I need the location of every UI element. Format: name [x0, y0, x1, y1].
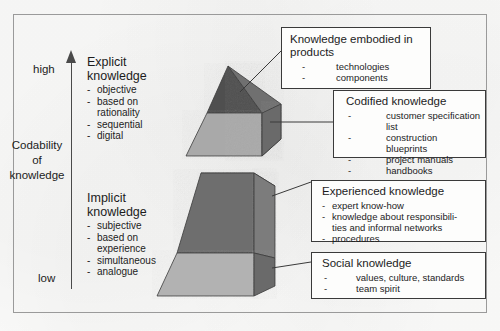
pyramid-segment-codified-band	[186, 113, 262, 156]
callout-title-line-1: Experienced knowledge	[320, 185, 481, 198]
list-item-text: knowledge about responsibili-	[332, 211, 481, 222]
list-item-text: procedures	[332, 233, 481, 244]
list-item-text: values, culture, standards	[356, 272, 481, 283]
list-dash: -	[322, 211, 325, 222]
upper-pyramid	[186, 66, 281, 156]
callout-item-list: - expert know-how - knowledge about resp…	[320, 200, 481, 244]
leader-line-experienced	[272, 182, 311, 196]
list-item-text: team spirit	[356, 283, 481, 294]
list-item-text: construction blueprints	[386, 132, 481, 154]
callout-codified-knowledge[interactable]: Codified knowledge - customer specificat…	[333, 90, 486, 158]
list-item-text: technologies	[336, 61, 424, 72]
list-dash: -	[302, 61, 305, 72]
pyramid-side-face-lower-upper	[254, 173, 275, 258]
pyramid-side-face-upper-lower	[262, 104, 281, 156]
list-dash: -	[348, 154, 351, 165]
leader-line-products	[240, 51, 281, 92]
list-item: - knowledge about responsibili-	[322, 211, 481, 222]
list-dash: -	[348, 132, 351, 143]
lower-pyramid	[157, 173, 275, 296]
list-dash: -	[324, 272, 327, 283]
callout-title-line-1: Codified knowledge	[344, 95, 481, 108]
callout-title-line-1: Knowledge embodied in	[290, 33, 424, 46]
callout-item-list: - technologies - components	[290, 61, 424, 83]
list-dash: -	[322, 200, 325, 211]
list-item: - procedures	[322, 233, 481, 244]
list-item-text: project manuals	[386, 154, 481, 165]
pyramid-segment-social-band	[157, 253, 254, 296]
list-item: - construction blueprints	[348, 132, 481, 154]
list-item-text: handbooks	[386, 165, 481, 176]
callout-item-list: - values, culture, standards - team spir…	[320, 272, 481, 294]
callout-knowledge-embodied-in-products[interactable]: Knowledge embodied in products - technol…	[281, 27, 431, 89]
list-item: - customer specification list	[348, 110, 481, 132]
list-dash: -	[348, 165, 351, 176]
list-item: ties and informal networks	[322, 222, 481, 233]
list-dash: -	[324, 283, 327, 294]
list-dash: -	[348, 110, 351, 121]
list-item-text: customer specification list	[386, 110, 481, 132]
callout-title-line-1: Social knowledge	[320, 257, 481, 270]
pyramid-side-face-lower-lower	[254, 253, 275, 296]
list-item: - handbooks	[348, 165, 481, 176]
list-item: - technologies	[302, 61, 424, 72]
list-item: - components	[302, 72, 424, 83]
list-item: - expert know-how	[322, 200, 481, 211]
diagram-canvas: high low Codability of knowledge Explici…	[0, 0, 500, 331]
list-dash: -	[322, 233, 325, 244]
list-item: - values, culture, standards	[324, 272, 481, 283]
list-dash: -	[302, 72, 305, 83]
callout-item-list: - customer specification list - construc…	[344, 110, 481, 176]
list-item: - team spirit	[324, 283, 481, 294]
callout-title-line-2: products	[290, 46, 424, 59]
list-item-text: ties and informal networks	[332, 222, 481, 233]
list-item: - project manuals	[348, 154, 481, 165]
callout-social-knowledge[interactable]: Social knowledge - values, culture, stan…	[311, 252, 486, 299]
pyramid-segment-experienced-band	[177, 173, 254, 253]
callout-experienced-knowledge[interactable]: Experienced knowledge - expert know-how …	[311, 180, 486, 242]
leader-line-social	[272, 262, 311, 268]
list-item-text: components	[336, 72, 424, 83]
list-item-text: expert know-how	[332, 200, 481, 211]
